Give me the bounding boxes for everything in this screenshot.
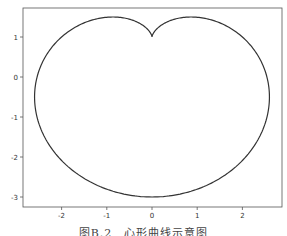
y-tick-label: 0: [14, 74, 18, 82]
y-tick-label: -1: [11, 114, 18, 122]
x-axis: -2-1012: [58, 207, 245, 220]
y-tick-label: -3: [11, 194, 18, 202]
figure-caption: 图B.2 心形曲线示意图: [0, 224, 287, 236]
y-tick-label: -2: [11, 154, 18, 162]
x-tick-label: 1: [195, 212, 199, 220]
cardioid-chart: 10-1-2-3 -2-1012: [0, 0, 287, 222]
x-tick-label: -2: [58, 212, 65, 220]
y-tick-label: 1: [14, 34, 18, 42]
y-axis: 10-1-2-3: [11, 34, 23, 202]
x-tick-label: 0: [150, 212, 154, 220]
x-tick-label: -1: [103, 212, 110, 220]
x-tick-label: 2: [240, 212, 244, 220]
